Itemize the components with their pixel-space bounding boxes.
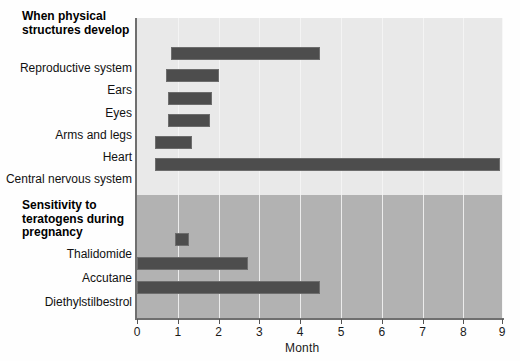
x-axis-title: Month (285, 341, 319, 355)
section-heading-teratogen-sensitivity: Sensitivity to teratogens during pregnan… (22, 199, 124, 240)
row-label-eyes: Eyes (105, 107, 132, 119)
tick-mark-2 (219, 319, 220, 324)
tick-label-7: 7 (413, 325, 433, 339)
tick-mark-4 (300, 319, 301, 324)
tick-label-6: 6 (372, 325, 392, 339)
bar-arms-and-legs (168, 114, 210, 127)
tick-label-1: 1 (168, 325, 188, 339)
tick-label-0: 0 (127, 325, 147, 339)
row-label-reproductive-system: Reproductive system (20, 62, 132, 74)
section-heading-physical-structures: When physical structures develop (22, 10, 129, 37)
tick-label-3: 3 (249, 325, 269, 339)
tick-mark-1 (178, 319, 179, 324)
bar-eyes (168, 92, 212, 105)
tick-mark-5 (341, 319, 342, 324)
row-label-diethylstilbestrol: Diethylstilbestrol (45, 296, 132, 308)
tick-mark-6 (382, 319, 383, 324)
row-label-central-nervous-system: Central nervous system (6, 173, 132, 185)
tick-mark-0 (137, 319, 138, 324)
gestation-timeline-chart: 0123456789 Month When physical structure… (0, 0, 520, 361)
row-label-thalidomide: Thalidomide (67, 248, 132, 260)
bar-heart (155, 136, 192, 149)
tick-label-2: 2 (209, 325, 229, 339)
tick-label-4: 4 (290, 325, 310, 339)
tick-mark-7 (423, 319, 424, 324)
x-axis-line (135, 318, 504, 320)
gridline-month-9 (502, 18, 503, 318)
row-label-heart: Heart (103, 151, 132, 163)
bar-reproductive-system (171, 47, 320, 60)
bar-central-nervous-system (155, 158, 500, 171)
bar-ears (166, 69, 219, 82)
plot-area (137, 18, 502, 318)
tick-mark-8 (463, 319, 464, 324)
bar-thalidomide (175, 233, 189, 246)
y-axis-line (135, 18, 137, 319)
tick-label-5: 5 (331, 325, 351, 339)
row-label-accutane: Accutane (82, 272, 132, 284)
row-label-ears: Ears (107, 84, 132, 96)
row-label-arms-and-legs: Arms and legs (55, 129, 132, 141)
tick-mark-9 (502, 319, 503, 324)
tick-mark-3 (259, 319, 260, 324)
tick-label-8: 8 (453, 325, 473, 339)
tick-label-9: 9 (492, 325, 512, 339)
bar-accutane (137, 257, 248, 270)
bar-diethylstilbestrol (137, 281, 320, 294)
